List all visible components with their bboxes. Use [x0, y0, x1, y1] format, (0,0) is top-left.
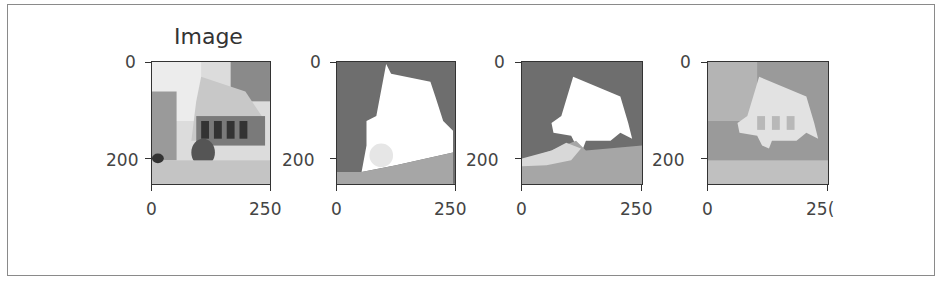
x-tick-label: 0 [516, 199, 527, 219]
mask-image [522, 62, 642, 184]
x-tick [641, 185, 642, 191]
x-tick [521, 185, 522, 191]
y-tick-label: 200 [652, 150, 684, 170]
x-tick-label: 250 [249, 199, 281, 219]
y-tick-label: 0 [494, 52, 505, 72]
overlay-axes [707, 61, 829, 185]
x-tick [827, 185, 828, 191]
x-tick-label: 0 [146, 199, 157, 219]
x-tick-label: 0 [702, 199, 713, 219]
x-tick-label: 250 [620, 199, 652, 219]
x-tick-label: 25( [806, 199, 834, 219]
x-tick [270, 185, 271, 191]
mask-axes [521, 61, 643, 185]
image-axes [151, 61, 271, 185]
x-tick-label: 0 [331, 199, 342, 219]
x-tick [707, 185, 708, 191]
mask-axes [336, 61, 456, 185]
x-tick-label: 250 [434, 199, 466, 219]
y-tick-label: 200 [466, 150, 498, 170]
house-photo [152, 62, 270, 184]
y-tick-label: 200 [282, 150, 314, 170]
y-tick-label: 0 [310, 52, 321, 72]
overlay-image [708, 62, 828, 184]
x-tick [336, 185, 337, 191]
panel-title: Image [174, 24, 243, 49]
y-tick-label: 200 [106, 150, 138, 170]
x-tick [151, 185, 152, 191]
mask-image [337, 62, 455, 184]
y-tick-label: 0 [125, 52, 136, 72]
x-tick [455, 185, 456, 191]
y-tick-label: 0 [680, 52, 691, 72]
